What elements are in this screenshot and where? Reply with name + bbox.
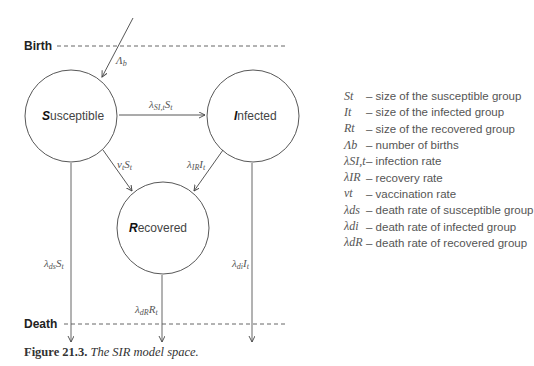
legend-symbol: λdi — [344, 219, 366, 234]
legend-symbol: λdR — [344, 235, 366, 250]
legend-symbol: St — [344, 89, 366, 104]
legend-description: – size of the infected group — [366, 106, 504, 118]
legend-item: λds– death rate of susceptible group — [344, 202, 534, 218]
legend-description: – size of the susceptible group — [366, 90, 521, 102]
legend-description: – vaccination rate — [366, 188, 456, 200]
figure-caption: Figure 21.3. The SIR model space. — [24, 345, 199, 360]
vaccination-arrow — [103, 150, 132, 191]
legend-description: – infection rate — [366, 155, 441, 167]
legend-item: λdi– death rate of infected group — [344, 218, 534, 234]
legend-item: It– size of the infected group — [344, 104, 534, 120]
legend-description: – death rate of susceptible group — [366, 204, 534, 216]
vaccination-edge-label: vtSt — [117, 158, 133, 172]
legend-description: – number of births — [366, 139, 459, 151]
legend-item: Λb– number of births — [344, 137, 534, 153]
legend-symbol: λSI,t — [344, 154, 366, 169]
recovered-label: Recovered — [129, 221, 187, 235]
legend-description: – death rate of recovered group — [366, 237, 527, 249]
legend-symbol: Λb — [344, 138, 366, 153]
birth-label: Birth — [24, 39, 52, 53]
legend-item: λdR– death rate of recovered group — [344, 235, 534, 251]
susceptible-death-label: λdsSt — [43, 257, 64, 271]
legend-symbol: λIR — [344, 170, 366, 185]
legend-symbol: It — [344, 105, 366, 120]
legend-item: vt– vaccination rate — [344, 186, 534, 202]
infection-edge-label: λSI,tSt — [148, 98, 173, 112]
caption-number: Figure 21.3. — [24, 345, 87, 359]
infected-label: Infected — [234, 109, 277, 123]
legend: St– size of the susceptible group It– si… — [344, 88, 534, 251]
legend-symbol: vt — [344, 186, 366, 201]
births-arrow — [102, 18, 133, 77]
recovery-edge-label: λIRIt — [186, 158, 206, 172]
legend-description: – recovery rate — [366, 172, 443, 184]
legend-description: – size of the recovered group — [366, 123, 515, 135]
births-edge-label: Λb — [115, 54, 127, 68]
death-label: Death — [24, 317, 57, 331]
legend-item: St– size of the susceptible group — [344, 88, 534, 104]
legend-description: – death rate of infected group — [366, 221, 516, 233]
infected-death-label: λdiIt — [231, 257, 250, 271]
legend-item: Rt– size of the recovered group — [344, 121, 534, 137]
legend-item: λIR– recovery rate — [344, 169, 534, 185]
recovered-death-label: λdRRt — [134, 303, 158, 317]
caption-text: The SIR model space. — [90, 345, 198, 359]
susceptible-label: Susceptible — [42, 109, 104, 123]
legend-item: λSI,t– infection rate — [344, 153, 534, 169]
legend-symbol: λds — [344, 203, 366, 218]
legend-symbol: Rt — [344, 121, 366, 136]
